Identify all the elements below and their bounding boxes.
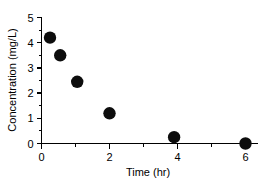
y-axis-tick-labels: 012345 [27,12,33,150]
x-tick-label: 2 [106,151,112,163]
scatter-plot: 012345 0246 Time (hr) Concentration (mg/… [0,0,266,186]
x-axis-title: Time (hr) [126,166,170,178]
chart-figure: 012345 0246 Time (hr) Concentration (mg/… [0,0,266,186]
data-point [103,107,115,119]
data-point [168,131,180,143]
y-tick-label: 2 [27,87,33,99]
x-tick-label: 0 [38,151,44,163]
data-point-series [44,31,252,149]
y-tick-label: 1 [27,112,33,124]
data-point [44,31,56,43]
y-axis-title: Concentration (mg/L) [6,28,18,131]
data-point [71,76,83,88]
y-tick-label: 0 [27,138,33,150]
data-point [54,49,66,61]
x-tick-label: 6 [242,151,248,163]
x-tick-label: 4 [174,151,180,163]
data-point [239,137,251,149]
x-axis-tick-labels: 0246 [38,151,248,163]
y-tick-label: 5 [27,12,33,24]
y-tick-label: 4 [27,37,33,49]
y-tick-label: 3 [27,62,33,74]
